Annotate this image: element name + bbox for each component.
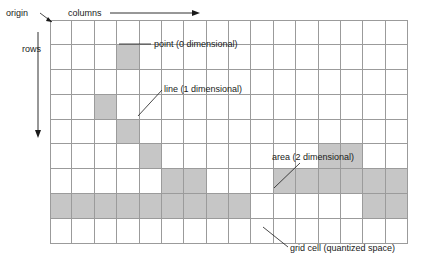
grid-cell-empty[interactable]: [229, 120, 251, 145]
grid-cell-empty[interactable]: [363, 95, 385, 120]
grid-cell-filled[interactable]: [95, 95, 117, 120]
grid-cell-empty[interactable]: [251, 70, 273, 95]
grid-cell-empty[interactable]: [274, 20, 296, 45]
grid-cell-empty[interactable]: [296, 120, 318, 145]
grid-cell-filled[interactable]: [319, 169, 341, 194]
grid-cell-empty[interactable]: [386, 70, 408, 95]
grid-cell-empty[interactable]: [95, 144, 117, 169]
grid-cell-empty[interactable]: [363, 219, 385, 244]
grid-cell-empty[interactable]: [319, 194, 341, 219]
grid-cell-empty[interactable]: [184, 144, 206, 169]
grid-cell-empty[interactable]: [207, 169, 229, 194]
grid-cell-empty[interactable]: [251, 219, 273, 244]
grid-cell-empty[interactable]: [50, 219, 72, 244]
grid-cell-empty[interactable]: [296, 20, 318, 45]
grid-cell-empty[interactable]: [274, 219, 296, 244]
grid-cell-empty[interactable]: [341, 70, 363, 95]
grid-cell-empty[interactable]: [207, 219, 229, 244]
grid-cell-empty[interactable]: [95, 70, 117, 95]
grid-cell-empty[interactable]: [117, 20, 139, 45]
grid-cell-empty[interactable]: [296, 95, 318, 120]
grid-cell-empty[interactable]: [341, 20, 363, 45]
grid-cell-empty[interactable]: [319, 45, 341, 70]
grid-cell-empty[interactable]: [386, 20, 408, 45]
grid-cell-empty[interactable]: [162, 219, 184, 244]
grid-cell-empty[interactable]: [72, 144, 94, 169]
grid-cell-empty[interactable]: [95, 20, 117, 45]
grid-cell-empty[interactable]: [363, 45, 385, 70]
grid-cell-empty[interactable]: [229, 95, 251, 120]
grid-cell-empty[interactable]: [386, 95, 408, 120]
grid-cell-filled[interactable]: [140, 194, 162, 219]
grid-cell-empty[interactable]: [296, 194, 318, 219]
grid-cell-empty[interactable]: [363, 70, 385, 95]
grid-cell-empty[interactable]: [296, 70, 318, 95]
grid-cell-empty[interactable]: [117, 144, 139, 169]
grid-cell-empty[interactable]: [140, 95, 162, 120]
grid-cell-empty[interactable]: [274, 95, 296, 120]
grid-cell-empty[interactable]: [319, 219, 341, 244]
grid-cell-empty[interactable]: [72, 45, 94, 70]
grid-cell-empty[interactable]: [140, 219, 162, 244]
grid-cell-filled[interactable]: [386, 169, 408, 194]
grid-cell-empty[interactable]: [140, 120, 162, 145]
grid-cell-empty[interactable]: [229, 144, 251, 169]
grid-cell-empty[interactable]: [140, 169, 162, 194]
grid-cell-empty[interactable]: [386, 144, 408, 169]
grid-cell-empty[interactable]: [274, 120, 296, 145]
grid-cell-empty[interactable]: [162, 120, 184, 145]
grid-cell-filled[interactable]: [341, 169, 363, 194]
grid-cell-empty[interactable]: [251, 20, 273, 45]
grid-cell-filled[interactable]: [207, 194, 229, 219]
grid-cell-empty[interactable]: [274, 194, 296, 219]
grid-cell-empty[interactable]: [341, 219, 363, 244]
grid-cell-empty[interactable]: [319, 95, 341, 120]
grid-cell-filled[interactable]: [296, 169, 318, 194]
grid-cell-empty[interactable]: [319, 70, 341, 95]
grid-cell-empty[interactable]: [95, 45, 117, 70]
grid-cell-empty[interactable]: [251, 95, 273, 120]
grid-cell-empty[interactable]: [363, 20, 385, 45]
grid-cell-empty[interactable]: [140, 70, 162, 95]
grid-cell-empty[interactable]: [296, 219, 318, 244]
grid-cell-empty[interactable]: [251, 194, 273, 219]
grid-cell-empty[interactable]: [50, 95, 72, 120]
grid-cell-filled[interactable]: [117, 120, 139, 145]
grid-cell-filled[interactable]: [50, 194, 72, 219]
grid-cell-filled[interactable]: [363, 194, 385, 219]
grid-cell-empty[interactable]: [207, 144, 229, 169]
grid-cell-empty[interactable]: [229, 169, 251, 194]
grid-cell-filled[interactable]: [117, 194, 139, 219]
grid-cell-empty[interactable]: [341, 95, 363, 120]
grid-cell-empty[interactable]: [251, 45, 273, 70]
grid-cell-empty[interactable]: [95, 219, 117, 244]
grid-cell-empty[interactable]: [72, 120, 94, 145]
grid-cell-empty[interactable]: [274, 70, 296, 95]
grid-cell-empty[interactable]: [95, 120, 117, 145]
grid-cell-empty[interactable]: [50, 70, 72, 95]
grid-cell-empty[interactable]: [72, 219, 94, 244]
grid-cell-filled[interactable]: [363, 169, 385, 194]
grid-cell-empty[interactable]: [341, 120, 363, 145]
grid-cell-empty[interactable]: [72, 20, 94, 45]
grid-cell-empty[interactable]: [72, 95, 94, 120]
grid-cell-empty[interactable]: [296, 45, 318, 70]
grid-cell-empty[interactable]: [386, 45, 408, 70]
grid-cell-filled[interactable]: [184, 169, 206, 194]
grid-cell-empty[interactable]: [50, 45, 72, 70]
grid-cell-filled[interactable]: [274, 169, 296, 194]
grid-cell-empty[interactable]: [229, 219, 251, 244]
grid-cell-empty[interactable]: [251, 120, 273, 145]
grid-cell-empty[interactable]: [341, 45, 363, 70]
grid-cell-empty[interactable]: [95, 169, 117, 194]
grid-cell-filled[interactable]: [140, 144, 162, 169]
grid-cell-empty[interactable]: [184, 120, 206, 145]
grid-cell-empty[interactable]: [386, 219, 408, 244]
grid-cell-empty[interactable]: [184, 95, 206, 120]
grid-cell-empty[interactable]: [50, 144, 72, 169]
grid-cell-empty[interactable]: [274, 45, 296, 70]
grid-cell-empty[interactable]: [117, 70, 139, 95]
grid-cell-filled[interactable]: [386, 194, 408, 219]
grid-cell-filled[interactable]: [117, 45, 139, 70]
grid-cell-empty[interactable]: [72, 169, 94, 194]
